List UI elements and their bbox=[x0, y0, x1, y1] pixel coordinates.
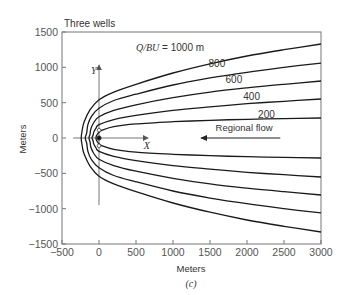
y-axis-title: Meters bbox=[17, 124, 28, 153]
x-tick-label: 1000 bbox=[161, 246, 185, 258]
curve-labels: Q/BU = 1000 m800600400200 bbox=[136, 42, 275, 120]
chart: Three wells −500050010001500200025003000… bbox=[0, 0, 350, 295]
wells bbox=[97, 128, 101, 147]
curve-label: 800 bbox=[209, 58, 226, 69]
y-tick-label: 1000 bbox=[35, 61, 59, 73]
y-tick-label: −1000 bbox=[29, 203, 59, 215]
axis-ticks: −500050010001500200025003000150010005000… bbox=[29, 26, 333, 258]
x-tick-label: 500 bbox=[127, 246, 145, 258]
y-tick-label: 500 bbox=[40, 97, 58, 109]
figure-caption: (c) bbox=[185, 278, 197, 290]
y-tick-label: 1500 bbox=[35, 26, 59, 38]
x-tick-label: 3000 bbox=[309, 246, 333, 258]
x-tick-label: 2500 bbox=[272, 246, 296, 258]
x-tick-label: 0 bbox=[96, 246, 102, 258]
local-axes: XY bbox=[73, 65, 151, 205]
y-tick-label: −1500 bbox=[29, 238, 59, 250]
local-x-label: X bbox=[143, 140, 151, 151]
curve-label: 200 bbox=[258, 109, 275, 120]
regional-flow-label: Regional flow bbox=[216, 122, 273, 133]
x-tick-label: 1500 bbox=[198, 246, 222, 258]
well-marker bbox=[97, 128, 101, 132]
well-marker bbox=[97, 144, 101, 148]
y-tick-label: −500 bbox=[34, 167, 58, 179]
annotations: Regional flow bbox=[201, 122, 280, 138]
curve-label-main: Q/BU = 1000 m bbox=[136, 42, 204, 53]
x-tick-label: 2000 bbox=[235, 246, 259, 258]
chart-title: Three wells bbox=[64, 18, 115, 29]
curve-label: 400 bbox=[243, 91, 260, 102]
x-axis-title: Meters bbox=[176, 263, 205, 274]
local-y-label: Y bbox=[91, 65, 98, 76]
curve-label: 600 bbox=[226, 74, 243, 85]
well-marker bbox=[97, 136, 101, 140]
y-tick-label: 0 bbox=[52, 132, 58, 144]
